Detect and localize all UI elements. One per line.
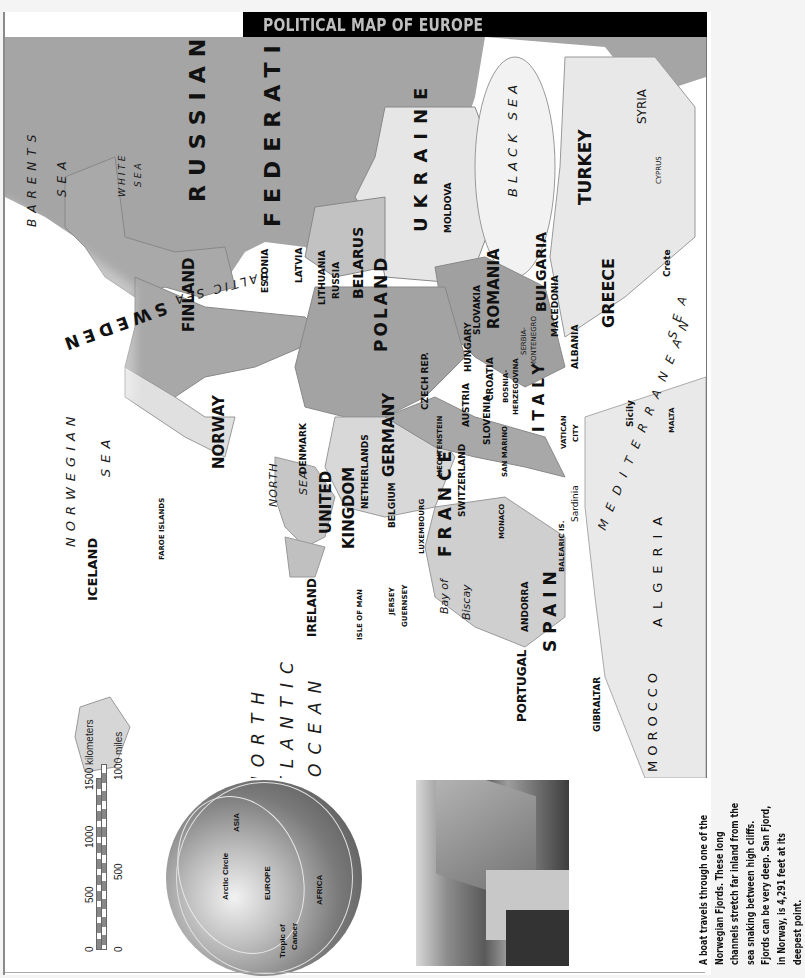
label-barents-sea: BARENTS	[25, 129, 39, 227]
label-serbia-2: MONTENEGRO	[530, 316, 538, 367]
label-north-sea: NORTH	[267, 462, 280, 507]
label-russia-kaliningrad: RUSSIA	[331, 262, 341, 299]
label-bay-of-biscay: Bay of	[438, 579, 451, 614]
scale-mi-label: 1000 miles	[113, 732, 124, 780]
label-greece: GREECE	[599, 258, 618, 328]
fjord-photo	[416, 780, 569, 966]
label-netherlands: NETHERLANDS	[360, 434, 370, 509]
label-vatican: VATICAN	[560, 415, 568, 449]
label-macedonia: MACEDONIA	[550, 275, 560, 337]
label-spain: SPAIN	[540, 565, 560, 652]
title-bar: POLITICAL MAP OF EUROPE	[243, 12, 707, 37]
label-white-sea: WHITE	[117, 152, 127, 197]
label-malta: MALTA	[668, 408, 676, 433]
label-belarus: BELARUS	[350, 227, 366, 299]
label-morocco: MOROCCO	[645, 668, 660, 772]
europe-map: BARENTS SEA WHITE SEA BALTIC SEA NORWEGI…	[5, 37, 706, 778]
scale-mi-tick-500: 500	[113, 863, 124, 880]
label-turkey: TURKEY	[575, 129, 595, 205]
label-russia: RUSSIAN	[185, 37, 210, 202]
scale-km-tick-0: 0	[84, 946, 95, 952]
label-jersey: JERSEY	[388, 587, 396, 615]
label-san-marino: SAN MARINO	[501, 426, 509, 477]
label-atlantic-2: ATLANTIC	[277, 653, 297, 778]
label-bosnia: BOSNIA-	[502, 370, 510, 403]
label-slovenia: SLOVENIA	[482, 395, 492, 445]
label-north-sea-2: SEA	[297, 471, 310, 495]
label-algeria: ALGERIA	[650, 508, 665, 627]
caption-line: Norwegian Fjords. These long	[712, 821, 728, 965]
label-switzerland: SWITZERLAND	[457, 444, 467, 517]
label-finland: FINLAND	[180, 257, 198, 332]
scale-km-label: 1500 kilometers	[84, 719, 95, 790]
label-cyprus: CYPRUS	[655, 156, 663, 184]
label-syria: SYRIA	[635, 89, 649, 124]
label-slovakia: SLOVAKIA	[472, 285, 482, 335]
globe-label-tropic-2: Cancer	[290, 923, 299, 950]
label-hungary: HUNGARY	[463, 322, 473, 372]
label-romania: ROMANIA	[485, 248, 503, 329]
label-uk-2: KINGDOM	[340, 467, 358, 549]
label-monaco: MONACO	[498, 504, 506, 539]
label-faroe-islands: FAROE ISLANDS	[158, 498, 166, 560]
label-austria: AUSTRIA	[461, 383, 471, 427]
label-portugal: PORTUGAL	[515, 650, 529, 722]
label-guernsey: GUERNSEY	[401, 585, 409, 627]
label-norway: NORWAY	[210, 395, 228, 469]
globe-label-europe: EUROPE	[263, 866, 272, 900]
label-isle-of-man: ISLE OF MAN	[356, 589, 364, 640]
photo-caption: A boat travels through one of the Norweg…	[696, 780, 805, 965]
label-norwegian-sea: NORWEGIAN	[63, 410, 78, 547]
label-sicily: Sicily	[625, 400, 635, 427]
label-belgium: BELGIUM	[387, 482, 397, 528]
page-title: POLITICAL MAP OF EUROPE	[263, 15, 483, 35]
label-luxembourg: LUXEMBOURG	[418, 499, 426, 554]
label-moldova: MOLDOVA	[443, 182, 453, 233]
caption-line: A boat travels through one of the	[696, 821, 712, 965]
label-estonia: ESTONIA	[260, 249, 270, 293]
label-barents-sea-2: SEA	[55, 156, 69, 197]
label-atlantic-3: OCEAN	[305, 672, 325, 777]
label-atlantic-1: NORTH	[248, 683, 268, 778]
caption-line: Fjords can be very deep. San Fjord,	[758, 821, 774, 965]
label-crete: Crete	[662, 249, 672, 277]
label-bulgaria: BULGARIA	[533, 232, 549, 312]
map-relief	[5, 37, 706, 778]
label-balearic: BALEARIC IS.	[558, 521, 566, 572]
globe-label-asia: ASIA	[232, 813, 241, 832]
label-albania: ALBANIA	[570, 325, 580, 369]
label-denmark: DENMARK	[298, 423, 308, 474]
caption-line: channels stretch far inland from the	[727, 821, 743, 965]
label-latvia: LATVIA	[294, 248, 304, 283]
label-andorra: ANDORRA	[520, 582, 530, 632]
bottom-rule	[5, 972, 705, 973]
label-gibraltar: GIBRALTAR	[592, 677, 602, 732]
globe-label-arctic: Arctic Circle	[221, 853, 230, 900]
label-iceland: ICELAND	[85, 538, 100, 601]
label-bay-of-biscay-2: Biscay	[460, 584, 473, 620]
label-black-sea: BLACK SEA	[505, 80, 520, 197]
label-russia-2: FEDERATION	[260, 37, 285, 227]
label-lithuania: LITHUANIA	[317, 250, 327, 305]
globe-label-tropic: Tropic of	[278, 924, 287, 958]
caption-line: sea snaking between high cliffs.	[743, 821, 759, 965]
label-ukraine: UKRAINE	[410, 79, 431, 232]
label-serbia: SERBIA-	[520, 327, 528, 355]
frame-border	[706, 37, 707, 778]
label-uk: UNITED	[317, 471, 335, 534]
scale-km-tick-1000: 1000	[84, 826, 95, 848]
label-liechtenstein: LIECHTENSTEIN	[436, 416, 444, 477]
globe-label-africa: AFRICA	[315, 875, 324, 905]
label-white-sea-2: SEA	[133, 160, 143, 187]
locator-globe: ASIA Arctic Circle EUROPE AFRICA Tropic …	[166, 780, 362, 976]
label-germany: GERMANY	[380, 393, 398, 477]
scale-km-tick-500: 500	[84, 886, 95, 903]
label-czech: CZECH REP.	[420, 352, 430, 410]
label-bosnia-2: HERZEGOVINA	[512, 358, 520, 415]
label-italy: ITALY	[530, 358, 548, 432]
label-norwegian-sea-2: SEA	[98, 434, 113, 477]
label-sardinia: Sardinia	[570, 485, 580, 522]
label-poland: POLAND	[371, 255, 391, 352]
scale-mi-tick-0: 0	[113, 946, 124, 952]
label-croatia: CROATIA	[485, 357, 495, 401]
